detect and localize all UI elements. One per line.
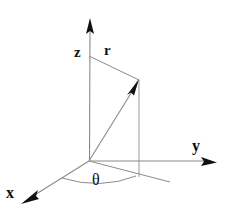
theta-angle-label: θ: [92, 172, 100, 188]
z-axis-label: z: [74, 45, 81, 60]
coordinate-axes-svg: [0, 0, 225, 221]
coordinate-system-figure: z r y x θ: [0, 0, 225, 221]
x-axis-line: [33, 161, 89, 196]
radius-vector-line: [89, 90, 133, 161]
radius-label: r: [104, 43, 111, 58]
ground-projection-line: [89, 161, 170, 182]
x-axis-arrowhead: [21, 190, 39, 204]
z-height-to-point-line: [89, 56, 139, 80]
z-axis-line: [90, 28, 91, 161]
radius-vector-arrowhead: [127, 79, 139, 96]
x-axis-label: x: [6, 185, 14, 201]
y-axis-label: y: [192, 138, 200, 154]
